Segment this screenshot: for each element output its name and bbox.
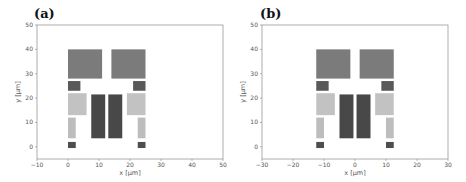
data-rect [375, 93, 394, 115]
data-rect [381, 81, 393, 91]
data-rect [386, 118, 394, 139]
x-tick-label: 20 [126, 161, 134, 168]
x-tick-label: −10 [31, 161, 44, 168]
data-rect [340, 94, 354, 138]
y-tick-label: 30 [25, 70, 33, 77]
y-tick-label: 0 [254, 143, 258, 150]
y-tick-label: 10 [25, 118, 33, 125]
x-tick-label: −30 [256, 161, 269, 168]
x-tick-label: 30 [444, 161, 452, 168]
data-rect [68, 142, 76, 148]
y-tick-label: 0 [29, 143, 33, 150]
data-rect [316, 118, 324, 139]
data-rect [316, 142, 324, 148]
plot-a: −100102030405001020304050x [µm]y [µm] [0, 0, 233, 182]
data-rect [316, 49, 350, 78]
y-tick-label: 20 [250, 94, 258, 101]
x-tick-label: 20 [413, 161, 421, 168]
panel-b: (b) −30−20−10010203001020304050x [µm]y [… [233, 0, 466, 182]
x-axis-label: x [µm] [119, 169, 140, 177]
data-rect [360, 49, 394, 78]
y-axis-label: y [µm] [14, 81, 22, 102]
y-tick-label: 40 [25, 45, 33, 52]
data-rect [138, 118, 146, 139]
x-tick-label: 0 [353, 161, 357, 168]
data-rect [91, 94, 105, 138]
x-tick-label: 10 [95, 161, 103, 168]
x-axis-label: x [µm] [344, 169, 365, 177]
y-tick-label: 30 [250, 70, 258, 77]
y-tick-label: 40 [250, 45, 258, 52]
x-tick-label: 10 [382, 161, 390, 168]
data-rect [138, 142, 146, 148]
plot-b: −30−20−10010203001020304050x [µm]y [µm] [233, 0, 466, 182]
data-rect [386, 142, 394, 148]
panel-a: (a) −100102030405001020304050x [µm]y [µm… [0, 0, 233, 182]
data-rect [127, 93, 146, 115]
data-rect [68, 49, 102, 78]
data-rect [357, 94, 371, 138]
data-rect [316, 81, 328, 91]
x-tick-label: 40 [188, 161, 196, 168]
x-tick-label: 30 [157, 161, 165, 168]
data-rect [316, 93, 335, 115]
x-tick-label: −20 [287, 161, 300, 168]
axes-frame [37, 25, 223, 159]
x-tick-label: 50 [219, 161, 227, 168]
data-rect [111, 49, 145, 78]
data-rect [68, 118, 76, 139]
data-rect [133, 81, 145, 91]
data-rect [68, 81, 80, 91]
data-rect [108, 94, 122, 138]
y-axis-label: y [µm] [239, 81, 247, 102]
x-tick-label: −10 [318, 161, 331, 168]
data-rect [68, 93, 87, 115]
x-tick-label: 0 [66, 161, 70, 168]
y-tick-label: 10 [250, 118, 258, 125]
y-tick-label: 50 [25, 21, 33, 28]
axes-frame [262, 25, 448, 159]
y-tick-label: 50 [250, 21, 258, 28]
y-tick-label: 20 [25, 94, 33, 101]
